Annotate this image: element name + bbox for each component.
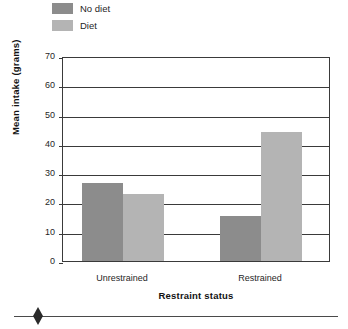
y-axis-tick-label: 50 — [34, 110, 55, 120]
footer-divider — [14, 316, 338, 317]
y-axis-tick-label: 10 — [34, 227, 55, 237]
x-axis-tick-label: Unrestrained — [72, 273, 172, 283]
y-axis-tick — [59, 146, 63, 147]
y-axis-tick — [59, 87, 63, 88]
bar-restrained-no-diet — [220, 216, 261, 261]
y-axis-tick — [59, 204, 63, 205]
y-axis-tick-label: 0 — [34, 256, 55, 266]
y-axis-tick — [59, 263, 63, 264]
gridline — [63, 87, 329, 88]
y-axis-tick — [59, 58, 63, 59]
x-axis-title: Restraint status — [62, 290, 330, 301]
y-axis-tick-label: 30 — [34, 168, 55, 178]
bar-unrestrained-no-diet — [82, 183, 123, 261]
gridline — [63, 117, 329, 118]
figure: No diet Diet Mean intake (grams) 7060504… — [0, 0, 348, 329]
y-axis-tick-label: 40 — [34, 139, 55, 149]
y-axis-title: Mean intake (grams) — [10, 39, 21, 135]
y-axis-tick-label: 60 — [34, 80, 55, 90]
y-axis-tick-label: 70 — [34, 51, 55, 61]
plot-area — [62, 57, 330, 262]
x-axis-tick-label: Restrained — [210, 273, 310, 283]
plot-wrapper: Mean intake (grams) 706050403020100 Unre… — [0, 0, 348, 329]
y-axis-tick — [59, 234, 63, 235]
y-axis-tick-label: 20 — [34, 197, 55, 207]
y-axis-tick — [59, 117, 63, 118]
y-axis-tick — [59, 175, 63, 176]
bar-restrained-diet — [261, 132, 302, 261]
bar-unrestrained-diet — [123, 194, 164, 261]
